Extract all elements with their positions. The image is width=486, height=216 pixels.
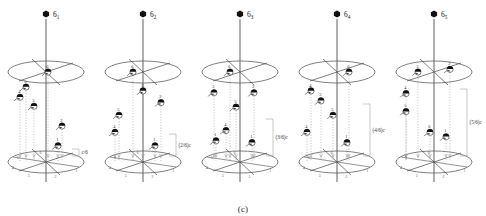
node-number: 2 (252, 84, 254, 89)
symmetry-node: 2 (248, 84, 257, 161)
base-tick-number: 1 (366, 169, 368, 173)
base-tick-number: 5 (114, 156, 116, 160)
base-tick-number: 2 (346, 175, 348, 179)
node-number: 1 (153, 137, 155, 142)
base-tick-number: 2 (55, 175, 57, 179)
translation-label: (4/6)c (373, 127, 386, 134)
base-tick-number: 4 (206, 166, 208, 170)
node-number: 6 (46, 64, 49, 69)
panel-graphic: 61654321123456c/6 (0, 0, 97, 190)
figure-caption: (c) (0, 204, 486, 214)
base-tick-number: 6 (137, 151, 139, 155)
base-tick-number: 1 (269, 169, 271, 173)
node-number: 4 (309, 83, 312, 88)
axis-apex-glyph (237, 10, 243, 17)
base-tick-number: 6 (234, 151, 236, 155)
axis-apex-glyph (431, 10, 437, 17)
symmetry-node: 1 (440, 128, 449, 161)
translation-bracket: (3/6)c (266, 119, 289, 156)
base-tick-number: 4 (400, 166, 402, 170)
translation-bracket: (2/6)c (169, 134, 192, 156)
symmetry-node: 3 (137, 83, 146, 162)
base-tick-number: 6 (40, 151, 42, 155)
node-number: 2 (60, 118, 62, 123)
node-number: 3 (319, 92, 322, 97)
screw-axis-panel: 61654321123456c/6 (0, 0, 97, 190)
base-tick-number: 3 (319, 174, 321, 178)
symmetry-node: 3 (208, 84, 217, 161)
node-number: 5 (331, 107, 334, 112)
base-tick-number: 1 (172, 169, 174, 173)
symmetry-node: 4 (400, 85, 409, 161)
base-tick-number: 2 (443, 175, 445, 179)
translation-label: c/6 (82, 149, 89, 155)
panel-graphic: 636325411123456(3/6)c (194, 0, 291, 190)
symmetry-node: 5 (20, 79, 29, 161)
symmetry-node: 4 (14, 89, 23, 161)
base-tick-number: 6 (428, 151, 430, 155)
base-tick-number: 4 (12, 166, 14, 170)
node-number: 3 (416, 64, 419, 69)
base-tick-number: 3 (222, 174, 224, 178)
node-number: 1 (56, 137, 58, 142)
base-tick-number: 3 (125, 174, 127, 178)
node-number: 6 (228, 64, 231, 69)
axis-apex-glyph (43, 10, 49, 17)
node-number: 3 (212, 84, 215, 89)
node-number: 5 (404, 103, 407, 108)
node-number: 4 (18, 89, 21, 94)
symmetry-node: 6 (127, 64, 136, 161)
panel-graphic: 65324561123456(5/6)c (388, 0, 485, 190)
base-tick-number: 5 (308, 156, 310, 160)
axis-apex-glyph (140, 10, 146, 17)
symmetry-node: 6 (224, 64, 233, 161)
screw-axis-figure: 61654321123456c/6 62632541123456(2/6)c 6… (0, 0, 486, 216)
symmetry-node: 4 (220, 122, 229, 161)
base-tick-number: 3 (28, 174, 30, 178)
axis-symbol: 61 (53, 10, 60, 20)
base-tick-number: 1 (75, 169, 77, 173)
node-number: 1 (444, 128, 446, 133)
axis-symbol: 63 (247, 10, 254, 20)
symmetry-node: 3 (412, 64, 421, 161)
node-number: 2 (159, 94, 161, 99)
axis-symbol: 64 (344, 10, 351, 20)
base-tick-number: 3 (416, 174, 418, 178)
symmetry-node: 6 (424, 124, 433, 161)
axis-apex-glyph (334, 10, 340, 17)
translation-bracket: (5/6)c (460, 89, 483, 156)
axis-symbol: 62 (150, 10, 157, 20)
panel-graphic: 64643541123456(4/6)c (291, 0, 388, 190)
axis-symbol: 65 (441, 10, 448, 20)
node-number: 6 (428, 124, 431, 129)
base-tick-number: 6 (331, 151, 333, 155)
screw-axis-panel: 636325411123456(3/6)c (194, 0, 291, 190)
node-number: 5 (24, 79, 27, 84)
node-number: 2 (448, 61, 450, 66)
base-tick-number: 5 (17, 156, 19, 160)
panel-row: 61654321123456c/6 62632541123456(2/6)c 6… (0, 0, 486, 190)
node-number: 5 (117, 107, 120, 112)
symmetry-node: 6 (343, 64, 352, 161)
translation-label: (2/6)c (179, 142, 192, 149)
node-number: 1 (250, 134, 252, 139)
base-tick-number: 5 (211, 156, 213, 160)
node-number: 4 (404, 85, 407, 90)
symmetry-node: 2 (155, 94, 164, 161)
node-number: 4 (113, 124, 116, 129)
screw-axis-panel: 64643541123456(4/6)c (291, 0, 388, 190)
symmetry-node: 3 (315, 92, 324, 161)
node-number: 5 (234, 99, 237, 104)
base-tick-number: 2 (249, 175, 251, 179)
symmetry-node: 4 (305, 83, 314, 162)
node-number: 4 (224, 122, 227, 127)
translation-bracket: (4/6)c (363, 104, 386, 156)
panel-graphic: 62632541123456(2/6)c (97, 0, 194, 190)
base-tick-number: 2 (152, 175, 154, 179)
symmetry-node: 2 (444, 61, 453, 161)
node-number: 3 (32, 98, 35, 103)
node-number: 1 (214, 132, 216, 137)
node-number: 4 (305, 124, 308, 129)
screw-axis-panel: 65324561123456(5/6)c (388, 0, 485, 190)
translation-label: (3/6)c (276, 134, 289, 141)
